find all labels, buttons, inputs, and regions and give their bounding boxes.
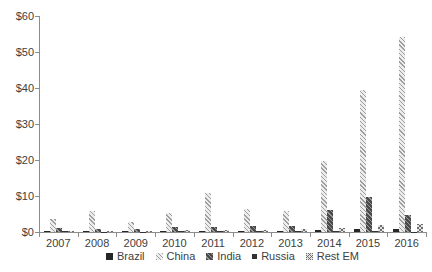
y-tick-label: $50 xyxy=(0,46,34,59)
x-tick-label: 2010 xyxy=(155,237,194,250)
y-tick xyxy=(35,88,39,89)
x-tick-label: 2015 xyxy=(349,237,388,250)
legend-label: China xyxy=(167,250,196,262)
x-tick-label: 2014 xyxy=(310,237,349,250)
bar-group-2014 xyxy=(311,16,350,232)
bar-group-2011 xyxy=(195,16,234,232)
legend: BrazilChinaIndiaRussiaRest EM xyxy=(39,250,426,262)
chart-canvas: $0$10$20$30$40$50$60 2007200820092010201… xyxy=(0,0,432,272)
bar-group-2009 xyxy=(117,16,156,232)
bar-rest-em-2010 xyxy=(184,230,190,232)
x-tick-label: 2007 xyxy=(39,237,78,250)
y-tick-label: $60 xyxy=(0,10,34,23)
bar-group-2015 xyxy=(350,16,389,232)
bar-rest-em-2007 xyxy=(68,231,74,232)
y-tick-label: $10 xyxy=(0,190,34,203)
x-tick-label: 2016 xyxy=(387,237,426,250)
bar-rest-em-2011 xyxy=(223,230,229,232)
y-tick-label: $0 xyxy=(0,226,34,239)
legend-marker-russia xyxy=(252,254,257,259)
bar-group-2008 xyxy=(79,16,118,232)
legend-item-china: China xyxy=(156,250,196,262)
x-tick-label: 2013 xyxy=(271,237,310,250)
legend-marker-rest-em xyxy=(306,253,313,260)
x-tick xyxy=(426,233,427,237)
bar-rest-em-2014 xyxy=(339,228,345,232)
x-axis-labels: 2007200820092010201120122013201420152016 xyxy=(39,237,426,250)
legend-marker-china xyxy=(156,253,163,260)
bar-india-2015 xyxy=(366,197,372,232)
y-tick-label: $20 xyxy=(0,154,34,167)
y-tick xyxy=(35,196,39,197)
legend-label: Brazil xyxy=(117,250,145,262)
x-tick-label: 2012 xyxy=(233,237,272,250)
bar-rest-em-2015 xyxy=(378,225,384,232)
legend-item-india: India xyxy=(206,250,241,262)
bar-rest-em-2013 xyxy=(301,229,307,232)
y-tick-label: $40 xyxy=(0,82,34,95)
legend-label: Russia xyxy=(261,250,295,262)
x-tick-label: 2008 xyxy=(78,237,117,250)
bar-group-2010 xyxy=(156,16,195,232)
plot-area xyxy=(39,16,427,233)
y-tick-label: $30 xyxy=(0,118,34,131)
bar-rest-em-2009 xyxy=(146,231,152,232)
bar-india-2014 xyxy=(327,210,333,232)
legend-item-russia: Russia xyxy=(252,250,295,262)
legend-label: India xyxy=(217,250,241,262)
legend-item-brazil: Brazil xyxy=(106,250,145,262)
legend-label: Rest EM xyxy=(317,250,359,262)
bar-china-2016 xyxy=(399,37,405,232)
legend-marker-india xyxy=(206,253,213,260)
bar-group-2007 xyxy=(40,16,79,232)
bar-group-2013 xyxy=(272,16,311,232)
bar-india-2016 xyxy=(405,215,411,232)
bar-group-2016 xyxy=(388,16,427,232)
bar-rest-em-2016 xyxy=(417,224,423,232)
bar-rest-em-2008 xyxy=(107,231,113,232)
y-tick xyxy=(35,160,39,161)
legend-item-rest-em: Rest EM xyxy=(306,250,359,262)
y-tick xyxy=(35,124,39,125)
y-tick xyxy=(35,52,39,53)
x-tick-label: 2011 xyxy=(194,237,233,250)
bar-rest-em-2012 xyxy=(262,230,268,232)
x-tick-label: 2009 xyxy=(116,237,155,250)
bar-group-2012 xyxy=(234,16,273,232)
bar-groups xyxy=(40,16,427,232)
y-tick xyxy=(35,16,39,17)
legend-marker-brazil xyxy=(106,253,113,260)
